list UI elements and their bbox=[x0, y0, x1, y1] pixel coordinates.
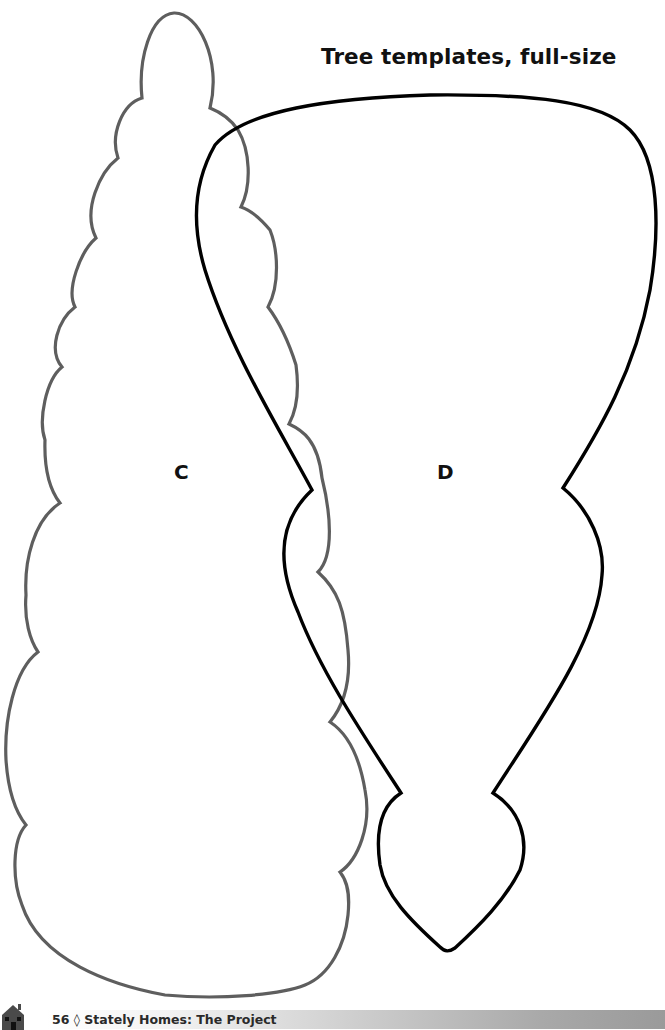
tree-template-c-outline bbox=[6, 13, 367, 997]
footer-page-label: 56 ◊ Stately Homes: The Project bbox=[52, 1012, 277, 1027]
house-icon bbox=[0, 1004, 28, 1030]
template-c-label: C bbox=[174, 460, 189, 484]
template-d-label: D bbox=[437, 460, 454, 484]
page-footer: 56 ◊ Stately Homes: The Project bbox=[0, 1000, 665, 1030]
tree-templates-drawing bbox=[0, 0, 665, 1000]
